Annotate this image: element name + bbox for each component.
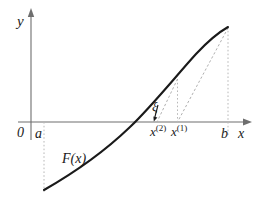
figure-canvas: y 0 a b x F(x) ξ x(2) x(1) (0, 0, 257, 202)
root-label-xi: ξ (152, 100, 158, 113)
x-axis-label: x (238, 127, 244, 141)
tangent-line-at-b (178, 28, 229, 122)
iterate-x1-superscript: (1) (177, 123, 188, 133)
y-axis-label: y (17, 14, 24, 29)
iterate-label-x1: x(1) (171, 124, 187, 138)
y-axis (28, 8, 34, 140)
left-bound-label-a: a (35, 127, 42, 141)
origin-label: 0 (17, 126, 24, 140)
right-bound-label-b: b (221, 127, 228, 141)
curve-label-fx: F(x) (62, 152, 86, 166)
iterate-x2-superscript: (2) (156, 123, 167, 133)
x-axis-arrowhead (243, 119, 252, 126)
newton-method-plot (0, 0, 257, 202)
y-axis-arrowhead (28, 8, 34, 17)
iterate-label-x2: x(2) (150, 124, 166, 138)
